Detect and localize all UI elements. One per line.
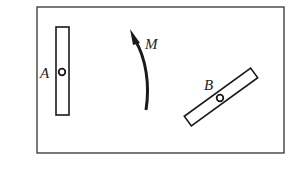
label-m: M bbox=[144, 36, 159, 52]
outer-frame bbox=[37, 7, 284, 153]
label-b: B bbox=[204, 77, 213, 93]
rod-a bbox=[56, 27, 69, 115]
label-a: A bbox=[39, 65, 50, 81]
pivot-b-icon bbox=[217, 95, 224, 102]
diagram-canvas: A M B bbox=[0, 0, 298, 170]
pivot-a-icon bbox=[59, 69, 66, 76]
